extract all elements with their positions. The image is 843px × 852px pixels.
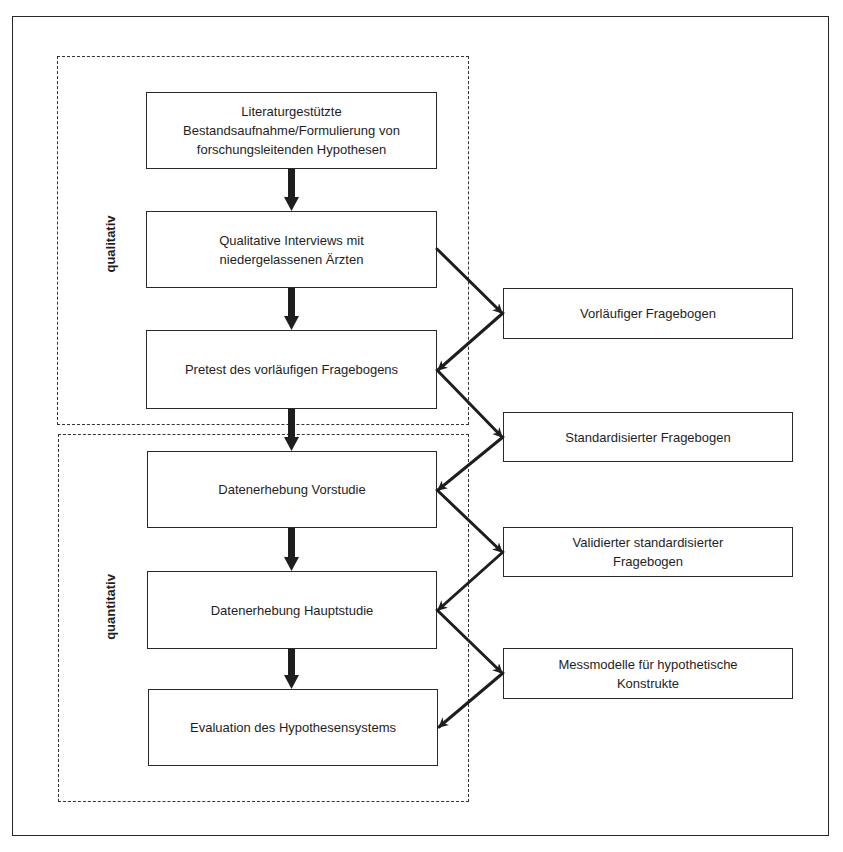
process-step-label: Literaturgestützte Bestandsaufnahme/Form… [183,102,400,159]
output-label: Validierter standardisierter Fragebogen [573,533,724,571]
output-preliminary-questionnaire: Vorläufiger Fragebogen [503,288,793,339]
output-label: Standardisierter Fragebogen [565,428,731,447]
process-step-evaluation: Evaluation des Hypothesensystems [148,689,438,766]
phase-label-quantitativ: quantitativ [103,574,118,640]
process-step-label: Qualitative Interviews mit niedergelasse… [219,231,364,269]
output-standardized-questionnaire: Standardisierter Fragebogen [503,412,793,462]
process-step-label: Evaluation des Hypothesensystems [190,718,396,737]
process-step-qualitative-interviews: Qualitative Interviews mit niedergelasse… [146,211,437,288]
process-step-label: Datenerhebung Hauptstudie [211,601,374,620]
process-step-label: Datenerhebung Vorstudie [218,480,365,499]
output-label: Messmodelle für hypothetische Konstrukte [558,655,737,693]
process-step-pilot-study: Datenerhebung Vorstudie [147,451,437,528]
phase-label-qualitativ: qualitativ [103,215,118,272]
process-step-main-study: Datenerhebung Hauptstudie [147,571,437,649]
process-step-label: Pretest des vorläufigen Fragebogens [185,360,398,379]
output-validated-questionnaire: Validierter standardisierter Fragebogen [503,527,793,577]
process-step-pretest: Pretest des vorläufigen Fragebogens [146,330,437,409]
process-step-literature-review: Literaturgestützte Bestandsaufnahme/Form… [146,92,437,169]
output-measurement-models: Messmodelle für hypothetische Konstrukte [503,648,793,699]
output-label: Vorläufiger Fragebogen [580,304,716,323]
